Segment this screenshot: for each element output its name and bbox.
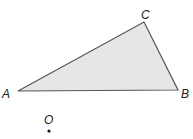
- vertex-label-b: B: [181, 87, 189, 101]
- point-o-dot: [47, 129, 50, 132]
- vertex-label-c: C: [141, 8, 150, 22]
- vertex-label-a: A: [1, 87, 10, 101]
- triangle-diagram: C A B O: [0, 0, 193, 139]
- triangle-abc: [18, 22, 178, 91]
- point-label-o: O: [44, 113, 53, 127]
